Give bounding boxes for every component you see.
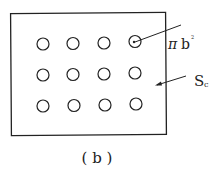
pore-center-dot — [133, 41, 135, 43]
pore-circle — [99, 99, 111, 111]
pore-circle — [98, 37, 110, 49]
figure-caption: ( b ) — [82, 149, 113, 167]
b-label: b — [181, 36, 190, 52]
arrow-head-icon — [155, 82, 162, 86]
pore-circle — [129, 67, 141, 79]
pore-circle — [37, 38, 49, 50]
pore-circle — [67, 69, 79, 81]
diagram-canvas: π b 2 S c ( b ) — [0, 0, 224, 178]
pi-label: π — [167, 36, 178, 52]
cell-boundary — [11, 12, 167, 135]
pore-circle — [130, 98, 142, 110]
pore-circle — [37, 69, 49, 81]
pore-circle — [37, 100, 49, 112]
pore-circle — [68, 100, 80, 112]
pore-circle — [98, 68, 110, 80]
pore-circle — [67, 38, 79, 50]
s-subscript-label: c — [204, 80, 209, 89]
exponent-label: 2 — [191, 34, 194, 40]
pore-grid — [37, 36, 142, 113]
s-label: S — [194, 72, 204, 90]
